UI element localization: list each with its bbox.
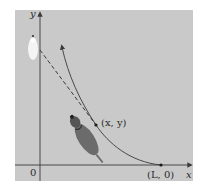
dog-position-label: (x, y) bbox=[101, 117, 127, 128]
point-dog-position bbox=[94, 123, 97, 126]
origin-label: 0 bbox=[30, 167, 36, 178]
start-point-label: (L, 0) bbox=[147, 169, 174, 180]
pursuit-curve-figure: y x 0 (x, y) (L, 0) bbox=[0, 0, 203, 185]
figure-panel bbox=[15, 10, 193, 181]
y-axis-label: y bbox=[29, 8, 36, 19]
x-axis-label: x bbox=[186, 169, 192, 180]
point-start-L0 bbox=[159, 163, 162, 166]
